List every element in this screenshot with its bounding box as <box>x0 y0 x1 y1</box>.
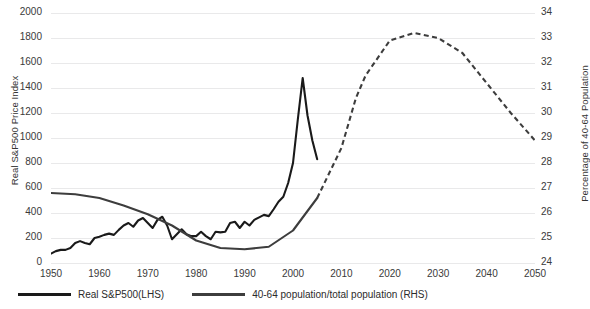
left-tick-label: 1400 <box>8 81 42 92</box>
left-tick-label: 2000 <box>8 6 42 17</box>
gridline <box>51 263 535 264</box>
right-tick-label: 29 <box>541 131 575 142</box>
series-line-demographics-projection <box>317 33 535 198</box>
x-tick-label: 2050 <box>513 268 557 279</box>
right-tick-label: 34 <box>541 6 575 17</box>
series-lines <box>51 13 535 263</box>
right-tick-label: 25 <box>541 231 575 242</box>
plot-area <box>51 13 535 263</box>
right-tick-label: 28 <box>541 156 575 167</box>
right-tick-label: 33 <box>541 31 575 42</box>
x-tick-label: 2030 <box>416 268 460 279</box>
right-tick-label: 30 <box>541 106 575 117</box>
legend-color-swatch <box>18 293 71 296</box>
left-tick-label: 600 <box>8 181 42 192</box>
right-tick-label: 24 <box>541 256 575 267</box>
left-tick-label: 1800 <box>8 31 42 42</box>
left-tick-label: 1000 <box>8 131 42 142</box>
x-tick-label: 1980 <box>174 268 218 279</box>
left-tick-label: 1200 <box>8 106 42 117</box>
legend-item[interactable]: 40-64 population/total population (RHS) <box>192 289 428 300</box>
chart-legend: Real S&P500(LHS)40-64 population/total p… <box>18 289 428 300</box>
left-tick-label: 1600 <box>8 56 42 67</box>
right-tick-label: 31 <box>541 81 575 92</box>
left-tick-label: 400 <box>8 206 42 217</box>
x-tick-label: 1950 <box>29 268 73 279</box>
legend-label: Real S&P500(LHS) <box>78 289 164 300</box>
series-line-sp500 <box>51 78 317 254</box>
legend-item[interactable]: Real S&P500(LHS) <box>18 289 164 300</box>
x-tick-label: 1960 <box>77 268 121 279</box>
x-tick-label: 2000 <box>271 268 315 279</box>
right-tick-label: 26 <box>541 206 575 217</box>
x-tick-label: 1970 <box>126 268 170 279</box>
series-line-demographics-actual <box>51 193 317 249</box>
left-tick-label: 200 <box>8 231 42 242</box>
right-tick-label: 27 <box>541 181 575 192</box>
legend-color-swatch <box>192 293 245 296</box>
right-tick-label: 32 <box>541 56 575 67</box>
left-tick-label: 0 <box>8 256 42 267</box>
x-tick-label: 2040 <box>465 268 509 279</box>
left-tick-label: 800 <box>8 156 42 167</box>
right-axis-title: Percentage of 40-64 Population <box>579 34 590 234</box>
x-tick-label: 2010 <box>319 268 363 279</box>
legend-label: 40-64 population/total population (RHS) <box>252 289 428 300</box>
x-tick-label: 1990 <box>223 268 267 279</box>
x-tick-label: 2020 <box>368 268 412 279</box>
